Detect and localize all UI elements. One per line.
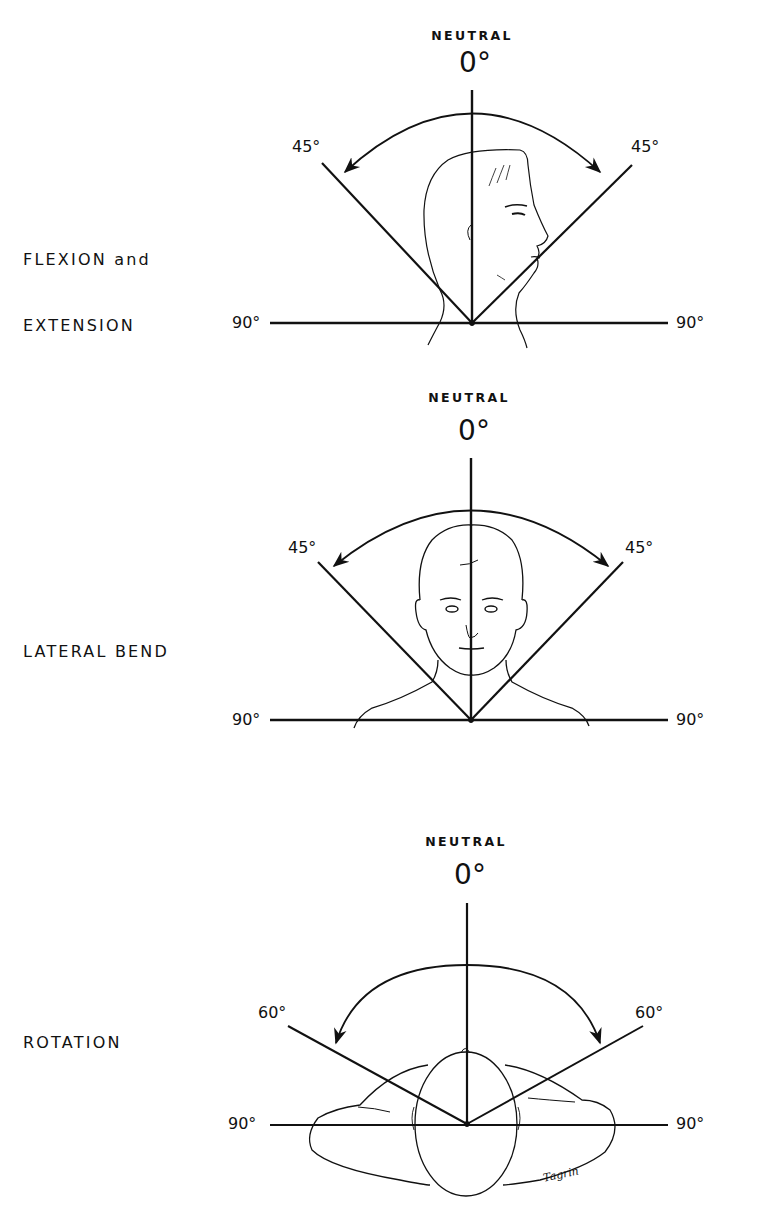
right-60-ray [467, 1026, 643, 1124]
range-of-motion-diagrams [0, 0, 765, 1207]
rotation-diagram [270, 903, 668, 1196]
left-45-ray [318, 562, 471, 720]
right-45-ray [471, 562, 623, 720]
head-profile-icon [424, 150, 548, 348]
lateral-bend-diagram [270, 458, 668, 728]
left-45-ray [322, 163, 472, 323]
right-45-ray [472, 165, 632, 323]
flexion-extension-diagram [270, 90, 668, 348]
